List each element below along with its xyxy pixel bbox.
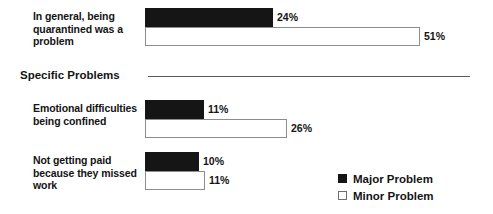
bar-value-major: 10% <box>199 152 224 171</box>
bar-major-problem <box>145 8 273 27</box>
bar-minor-problem <box>145 171 205 190</box>
bar-value-major: 11% <box>204 100 228 119</box>
bar-group-label: Emotional difficulties being confined <box>33 102 141 127</box>
bar-major-problem <box>145 152 199 171</box>
legend-item-major-problem: Major Problem <box>338 170 488 187</box>
chart-legend: Major Problem Minor Problem <box>338 170 488 204</box>
bar-track-minor: 26% <box>145 119 493 138</box>
bar-group-label: In general, being quarantined was a prob… <box>33 10 141 48</box>
legend-label: Major Problem <box>353 173 433 185</box>
section-header-specific-problems: Specific Problems <box>0 67 493 87</box>
bar-chart: In general, being quarantined was a prob… <box>0 0 493 214</box>
legend-label: Minor Problem <box>353 190 434 202</box>
bar-group-label: Not getting paid because they missed wor… <box>33 154 141 192</box>
bar-track-minor: 51% <box>145 27 493 46</box>
bar-value-major: 24% <box>273 8 298 27</box>
bar-track-major: 24% <box>145 8 493 27</box>
bar-minor-problem <box>145 27 420 46</box>
legend-item-minor-problem: Minor Problem <box>338 187 488 204</box>
bar-minor-problem <box>145 119 287 138</box>
section-title: Specific Problems <box>20 67 120 83</box>
bar-track-major: 11% <box>145 100 493 119</box>
bar-track-major: 10% <box>145 152 493 171</box>
filled-square-icon <box>338 174 347 183</box>
bar-value-minor: 26% <box>287 119 312 138</box>
section-divider <box>148 76 470 77</box>
outlined-square-icon <box>338 191 347 200</box>
bar-major-problem <box>145 100 204 119</box>
bar-value-minor: 11% <box>205 171 229 190</box>
bar-value-minor: 51% <box>420 27 445 46</box>
